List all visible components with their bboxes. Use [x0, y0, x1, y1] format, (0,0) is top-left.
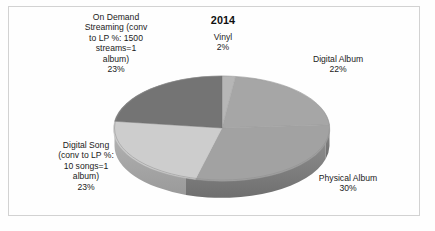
pie-chart-figure: 2014 On Demand Streaming (conv to LP %: …: [0, 0, 435, 231]
slice-top-on-demand-streaming: [115, 76, 222, 128]
slice-label-vinyl: Vinyl 2%: [186, 32, 260, 53]
slice-label-digital-song: Digital Song (conv to LP %: 10 songs=1 a…: [24, 140, 148, 192]
slice-label-digital-album: Digital Album 22%: [288, 54, 388, 75]
slice-label-on-demand-streaming: On Demand Streaming (conv to LP %: 1500 …: [56, 12, 176, 74]
slice-top-digital-album: [222, 77, 330, 128]
slice-label-physical-album: Physical Album 30%: [296, 173, 400, 194]
chart-title: 2014: [178, 14, 268, 26]
